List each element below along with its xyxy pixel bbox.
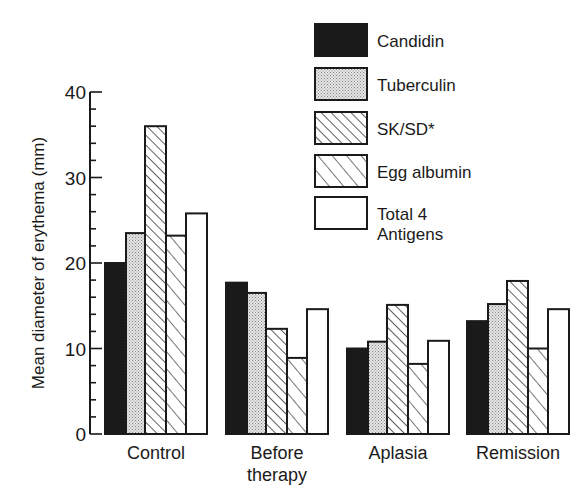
x-category-label: therapy xyxy=(247,465,307,485)
bar-candidin xyxy=(226,283,247,434)
x-axis-labels: ControlBeforetherapyAplasiaRemission xyxy=(127,443,560,485)
y-tick-label: 20 xyxy=(65,253,86,274)
bar-candidin xyxy=(105,263,126,434)
bar-tuberculin xyxy=(488,304,507,434)
bar-tuberculin xyxy=(368,342,387,434)
bar-egg-albumin xyxy=(528,349,548,435)
bar-group-control xyxy=(105,126,207,434)
legend-label: SK/SD* xyxy=(377,120,435,139)
legend-swatch xyxy=(315,155,367,187)
legend-label: Tuberculin xyxy=(377,76,456,95)
bar-group-aplasia xyxy=(347,305,449,434)
bar-egg-albumin xyxy=(408,364,428,434)
bar-total-4-antigens xyxy=(186,213,207,434)
legend-label: Candidin xyxy=(377,32,444,51)
bar-egg-albumin xyxy=(166,236,186,434)
y-tick-label: 0 xyxy=(75,424,86,445)
bar-total-4-antigens xyxy=(307,309,328,434)
legend-item: Tuberculin xyxy=(315,68,456,100)
bar-group-before-therapy xyxy=(226,283,328,434)
bar-sk-sd xyxy=(266,329,287,434)
legend-swatch xyxy=(315,68,367,100)
bar-total-4-antigens xyxy=(428,341,449,434)
legend-item: Total 4Antigens xyxy=(315,197,443,244)
bar-tuberculin xyxy=(247,293,266,434)
y-tick-label: 10 xyxy=(65,339,86,360)
x-category-label: Remission xyxy=(476,443,560,463)
bar-candidin xyxy=(467,321,488,434)
bar-sk-sd xyxy=(145,126,166,434)
legend-item: SK/SD* xyxy=(315,112,435,144)
x-category-label: Aplasia xyxy=(368,443,428,463)
legend: CandidinTuberculinSK/SD*Egg albuminTotal… xyxy=(315,24,472,244)
bar-total-4-antigens xyxy=(548,309,569,434)
y-tick-label: 30 xyxy=(65,168,86,189)
bar-group-remission xyxy=(467,281,569,434)
y-tick-label: 40 xyxy=(65,82,86,103)
bar-candidin xyxy=(347,349,368,435)
bar-sk-sd xyxy=(387,305,408,434)
bar-egg-albumin xyxy=(287,358,307,434)
legend-label: Egg albumin xyxy=(377,163,472,182)
y-axis-label: Mean diameter of erythema (mm) xyxy=(29,137,48,389)
legend-label: Total 4 xyxy=(377,205,427,224)
legend-item: Egg albumin xyxy=(315,155,472,187)
legend-item: Candidin xyxy=(315,24,444,56)
bar-sk-sd xyxy=(507,281,528,434)
x-category-label: Control xyxy=(127,443,185,463)
legend-label: Antigens xyxy=(377,225,443,244)
erythema-bar-chart: 010203040 ControlBeforetherapyAplasiaRem… xyxy=(0,0,588,502)
x-category-label: Before xyxy=(250,443,303,463)
legend-swatch xyxy=(315,24,367,56)
y-axis: 010203040 xyxy=(65,82,102,445)
legend-swatch xyxy=(315,112,367,144)
legend-swatch xyxy=(315,197,367,229)
bar-tuberculin xyxy=(126,233,145,434)
